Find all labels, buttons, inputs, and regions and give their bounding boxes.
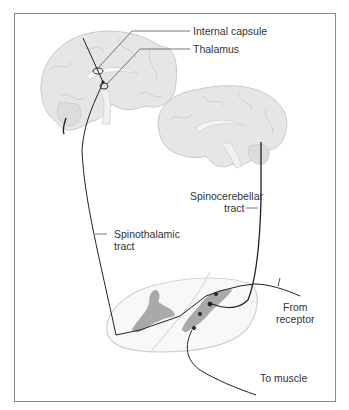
spinal-cord [107,272,257,352]
right-cerebellum [249,144,269,164]
label-to-muscle: To muscle [260,372,307,384]
label-internal-capsule: Internal capsule [193,25,267,37]
label-spinocerebellar-2: tract [224,202,244,214]
label-from-receptor-1: From [283,301,308,313]
diagram-artwork [0,0,349,410]
label-spinocerebellar-1: Spinocerebellar [190,190,263,202]
afferent-fiber [254,284,300,296]
label-spinothalamic-1: Spinothalamic [114,228,180,240]
label-from-receptor-2: receptor [276,313,315,325]
label-spinothalamic-2: tract [114,240,134,252]
right-brain [158,86,287,168]
label-thalamus: Thalamus [193,43,239,55]
